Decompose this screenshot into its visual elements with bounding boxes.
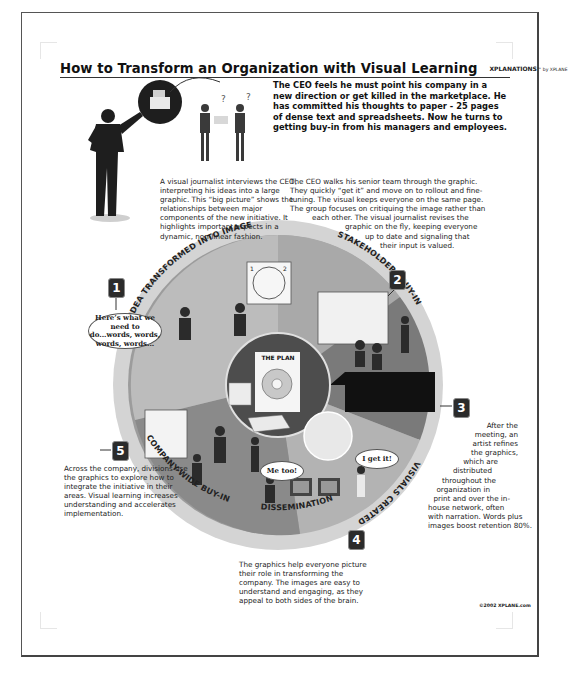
step-3-description: After the meeting, an artist refines the… — [428, 421, 518, 530]
text-line: The group focuses on critiquing the imag… — [290, 204, 515, 213]
speech-text: Here’s what we need to do...words, words… — [89, 314, 161, 348]
intro-text: The CEO feels he must point his company … — [273, 80, 508, 133]
text-line: house network, often — [428, 503, 518, 512]
speech-text: I get it! — [362, 455, 392, 464]
step-4-description: The graphics help everyone picture their… — [239, 560, 379, 605]
me-too-speech-bubble: Me too! — [260, 461, 304, 481]
text-line: graphic on the fly, keeping everyone — [290, 222, 515, 231]
step-2-description: The CEO walks his senior team through th… — [290, 177, 515, 250]
text-line: throughout the — [428, 476, 518, 485]
step-5-badge: 5 — [112, 441, 129, 461]
text-line: The CEO walks his senior team through th… — [290, 177, 515, 186]
text-line: distributed — [428, 466, 518, 475]
step-1-description: A visual journalist interviews the CEO, … — [160, 177, 300, 241]
ceo-speech-bubble: Here’s what we need to do...words, words… — [88, 313, 162, 349]
text-line: up to date and signaling that — [290, 232, 515, 241]
header: How to Transform an Organization with Vi… — [60, 59, 510, 78]
corner-mark — [40, 612, 57, 629]
brand-suffix: by XPLANE — [543, 67, 568, 72]
speech-text: Me too! — [267, 467, 297, 476]
text-line: tuning. The visual keeps everyone on the… — [290, 195, 515, 204]
text-line: meeting, an — [428, 430, 518, 439]
step-4-badge: 4 — [348, 530, 365, 550]
text-line: which are — [428, 457, 518, 466]
text-line: their input is valued. — [290, 241, 515, 250]
got-it-speech-bubble: I get it! — [355, 449, 399, 469]
brand-name: XPLANATIONS — [489, 65, 536, 72]
brand-logo: XPLANATIONS™ by XPLANE — [489, 64, 567, 75]
text-line: with narration. Words plus — [428, 512, 518, 521]
text-line: organization in — [428, 485, 518, 494]
copyright: ©2002 XPLANE.com — [479, 603, 531, 608]
step-5-description: Across the company, divisions use the gr… — [64, 464, 194, 519]
step-3-badge: 3 — [453, 398, 470, 418]
corner-mark — [496, 42, 513, 59]
text-line: They quickly “get it” and move on to rol… — [290, 186, 515, 195]
plan-title: THE PLAN — [258, 354, 298, 361]
text-line: the graphics, — [428, 448, 518, 457]
step-2-badge: 2 — [389, 270, 406, 290]
text-line: After the — [428, 421, 518, 430]
text-line: print and over the in- — [428, 494, 518, 503]
corner-mark — [496, 612, 513, 629]
step-1-badge: 1 — [108, 278, 125, 298]
text-line: artist refines — [428, 439, 518, 448]
text-line: each other. The visual journalist revise… — [290, 213, 515, 222]
corner-mark — [40, 42, 57, 59]
page-title: How to Transform an Organization with Vi… — [60, 61, 477, 77]
text-line: images boost retention 80%. — [428, 521, 518, 530]
